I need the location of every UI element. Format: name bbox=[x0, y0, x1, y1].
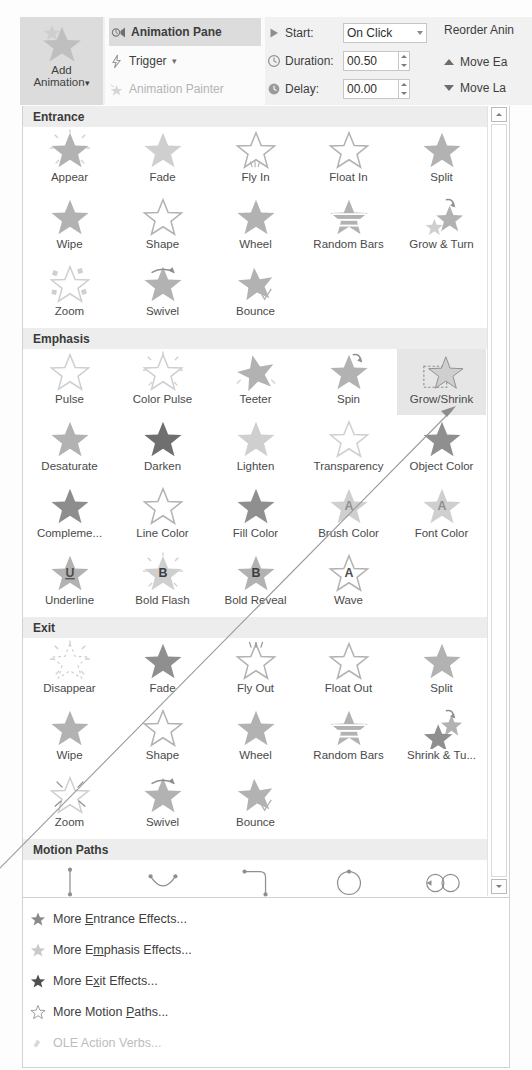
scrollbar-track[interactable] bbox=[491, 124, 507, 877]
gallery-item-brush-color[interactable]: ABrush Color bbox=[304, 483, 393, 549]
gallery-item-bounce[interactable]: Bounce bbox=[211, 772, 300, 838]
delay-input[interactable]: 00.00 bbox=[343, 79, 399, 99]
gallery-item-random-bars[interactable]: Random Bars bbox=[304, 194, 393, 260]
menu-item-more-emphasis-effects[interactable]: More Emphasis Effects... bbox=[23, 935, 509, 965]
gallery-item-line-color[interactable]: Line Color bbox=[118, 483, 207, 549]
gallery-item-swivel[interactable]: Swivel bbox=[118, 772, 207, 838]
star-wave-icon: A bbox=[326, 552, 372, 594]
move-later-button[interactable]: Move La bbox=[444, 75, 506, 101]
gallery-item-shrink-tu[interactable]: Shrink & Tu... bbox=[397, 705, 486, 771]
gallery-item-label: Wipe bbox=[56, 749, 82, 762]
animation-pane-button[interactable]: Animation Pane bbox=[109, 18, 261, 46]
gallery-item-zoom[interactable]: Zoom bbox=[25, 261, 114, 327]
star-faded-icon bbox=[23, 935, 53, 965]
gallery-item-darken[interactable]: Darken bbox=[118, 416, 207, 482]
gallery-item-split[interactable]: Split bbox=[397, 638, 486, 704]
star-bold-reveal-icon: B bbox=[233, 552, 279, 594]
gallery-item-wave[interactable]: AWave bbox=[304, 550, 393, 616]
gallery-item-bold-reveal[interactable]: BBold Reveal bbox=[211, 550, 300, 616]
gallery-item-compleme[interactable]: Compleme... bbox=[25, 483, 114, 549]
gallery-item-spin[interactable]: Spin bbox=[304, 349, 393, 415]
gallery-item-fly-out[interactable]: Fly Out bbox=[211, 638, 300, 704]
svg-text:A: A bbox=[344, 499, 353, 513]
scroll-up-arrow-icon[interactable] bbox=[491, 107, 507, 122]
star-random-bars-out-icon bbox=[326, 707, 372, 749]
delay-stepper[interactable] bbox=[399, 79, 410, 99]
gallery-row: ZoomSwivelBounce bbox=[23, 261, 487, 328]
gallery-item-fly-in[interactable]: Fly In bbox=[211, 127, 300, 193]
gallery-item-color-pulse[interactable]: Color Pulse bbox=[118, 349, 207, 415]
gallery-row: DesaturateDarkenLightenTransparencyObjec… bbox=[23, 416, 487, 483]
gallery-item-pulse[interactable]: Pulse bbox=[25, 349, 114, 415]
gallery-item-label: Fly Out bbox=[237, 682, 274, 695]
duration-stepper[interactable] bbox=[399, 51, 410, 71]
duration-input[interactable]: 00.50 bbox=[343, 51, 399, 71]
gallery-row: ZoomSwivelBounce bbox=[23, 772, 487, 839]
gallery-row: WipeShapeWheelRandom BarsShrink & Tu... bbox=[23, 705, 487, 772]
animation-effects-gallery[interactable]: EntranceAppearFadeFly InFloat InSplitWip… bbox=[22, 106, 510, 898]
gallery-row: AppearFadeFly InFloat InSplit bbox=[23, 127, 487, 194]
menu-item-more-motion-paths[interactable]: More Motion Paths... bbox=[23, 997, 509, 1027]
gallery-item-object-color[interactable]: Object Color bbox=[397, 416, 486, 482]
gallery-item-font-color[interactable]: AFont Color bbox=[397, 483, 486, 549]
chevron-down-icon bbox=[417, 31, 423, 35]
menu-item-more-entrance-effects[interactable]: More Entrance Effects... bbox=[23, 904, 509, 934]
gallery-item-bounce[interactable]: Bounce bbox=[211, 261, 300, 327]
gallery-item-fade[interactable]: Fade bbox=[118, 638, 207, 704]
gallery-item-transparency[interactable]: Transparency bbox=[304, 416, 393, 482]
star-wheel-icon bbox=[233, 196, 279, 238]
gallery-item-wipe[interactable]: Wipe bbox=[25, 194, 114, 260]
star-desaturate-icon bbox=[47, 418, 93, 460]
gallery-item-shape[interactable]: Shape bbox=[118, 194, 207, 260]
gallery-item-disappear[interactable]: Disappear bbox=[25, 638, 114, 704]
gallery-item-lighten[interactable]: Lighten bbox=[211, 416, 300, 482]
gallery-item-underline[interactable]: UUnderline bbox=[25, 550, 114, 616]
gallery-item-fill-color[interactable]: Fill Color bbox=[211, 483, 300, 549]
star-zoom-out-icon bbox=[47, 774, 93, 816]
move-earlier-button[interactable]: Move Ea bbox=[444, 49, 507, 75]
gallery-item-wheel[interactable]: Wheel bbox=[211, 705, 300, 771]
svg-text:B: B bbox=[158, 566, 167, 580]
gallery-item-desaturate[interactable]: Desaturate bbox=[25, 416, 114, 482]
gallery-item-grow-shrink[interactable]: Grow/Shrink bbox=[397, 349, 486, 415]
gallery-item-label: Underline bbox=[45, 594, 94, 607]
gallery-item-wipe[interactable]: Wipe bbox=[25, 705, 114, 771]
gallery-item-label: Swivel bbox=[146, 305, 179, 318]
gallery-item-grow-turn[interactable]: Grow & Turn bbox=[397, 194, 486, 260]
start-row: Start: On Click bbox=[267, 19, 427, 47]
gallery-item-shape[interactable]: Shape bbox=[118, 705, 207, 771]
gallery-item-appear[interactable]: Appear bbox=[25, 127, 114, 193]
menu-item-more-exit-effects[interactable]: More Exit Effects... bbox=[23, 966, 509, 996]
star-pulse-icon bbox=[47, 351, 93, 393]
start-select[interactable]: On Click bbox=[343, 23, 427, 43]
gallery-item-label: Grow & Turn bbox=[409, 238, 474, 251]
gallery-item-split[interactable]: Split bbox=[397, 127, 486, 193]
chevron-down-icon: ▾ bbox=[172, 56, 177, 66]
gallery-item-fade[interactable]: Fade bbox=[118, 127, 207, 193]
trigger-button[interactable]: Trigger ▾ bbox=[109, 47, 177, 75]
gallery-item-label: Shape bbox=[146, 749, 179, 762]
scroll-down-arrow-icon[interactable] bbox=[491, 879, 507, 894]
gallery-scrollbar[interactable] bbox=[487, 106, 509, 896]
gallery-item-wheel[interactable]: Wheel bbox=[211, 194, 300, 260]
gallery-item-float-out[interactable]: Float Out bbox=[304, 638, 393, 704]
menu-item-label: OLE Action Verbs... bbox=[53, 1036, 161, 1050]
gallery-item-random-bars[interactable]: Random Bars bbox=[304, 705, 393, 771]
gallery-item-label: Appear bbox=[51, 171, 88, 184]
gallery-item-swivel[interactable]: Swivel bbox=[118, 261, 207, 327]
start-label: Start: bbox=[285, 26, 343, 40]
gallery-item-label: Random Bars bbox=[313, 238, 383, 251]
star-grow-turn-icon bbox=[419, 196, 465, 238]
add-animation-button[interactable]: Add Animation▾ bbox=[20, 17, 103, 105]
gallery-item-label: Swivel bbox=[146, 816, 179, 829]
animation-painter-label: Animation Painter bbox=[129, 82, 224, 96]
more-effects-menu[interactable]: More Entrance Effects...More Emphasis Ef… bbox=[22, 898, 510, 1068]
star-swivel-out-icon bbox=[140, 774, 186, 816]
gallery-item-bold-flash[interactable]: BBold Flash bbox=[118, 550, 207, 616]
gallery-item-zoom[interactable]: Zoom bbox=[25, 772, 114, 838]
start-value: On Click bbox=[347, 26, 392, 40]
gallery-item-float-in[interactable]: Float In bbox=[304, 127, 393, 193]
reorder-animation-title: Reorder Anin bbox=[444, 23, 514, 37]
star-split-icon bbox=[419, 129, 465, 171]
gallery-item-teeter[interactable]: Teeter bbox=[211, 349, 300, 415]
